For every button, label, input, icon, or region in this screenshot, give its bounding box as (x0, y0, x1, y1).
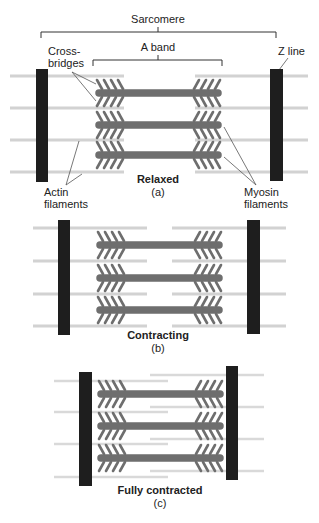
panel-contracting: Contracting (b) (33, 220, 286, 354)
z-line-left (79, 372, 92, 486)
myosin-label-line2: filaments (244, 198, 289, 210)
myosin-filaments (99, 381, 222, 471)
actin-leaders (66, 141, 82, 185)
actin-label-line2: filaments (44, 198, 89, 210)
z-line-right (226, 366, 238, 480)
myosin-filaments (98, 232, 221, 323)
myosin-leaders (224, 127, 256, 185)
sarcomere-bracket (41, 27, 276, 38)
panel-a-letter: (a) (151, 186, 164, 198)
actin-label-line1: Actin (44, 186, 68, 198)
z-line-label: Z line (278, 45, 305, 57)
panel-b-title: Contracting (127, 329, 189, 341)
myosin-filaments (97, 80, 220, 168)
z-line-right (247, 220, 260, 334)
cross-bridges-label-line2: bridges (48, 57, 85, 69)
z-line-left (36, 69, 48, 182)
panel-c-title: Fully contracted (118, 484, 203, 496)
panel-a-title: Relaxed (137, 173, 179, 185)
panel-c-letter: (c) (154, 497, 167, 509)
z-line-left (58, 220, 70, 335)
myosin-label-line1: Myosin (244, 186, 279, 198)
panel-b-letter: (b) (151, 342, 164, 354)
a-band-bracket (93, 55, 222, 66)
a-band-label: A band (141, 41, 175, 53)
sarcomere-label: Sarcomere (131, 13, 185, 25)
cross-bridges-label-line1: Cross- (48, 45, 81, 57)
panel-fully-contracted: Fully contracted (c) (54, 366, 264, 509)
sarcomere-contraction-diagram: Sarcomere A band Cross- bridges Z line (0, 0, 319, 523)
panel-relaxed: Sarcomere A band Cross- bridges Z line (10, 13, 308, 210)
z-line-leader (279, 58, 288, 70)
z-line-right (270, 69, 283, 181)
